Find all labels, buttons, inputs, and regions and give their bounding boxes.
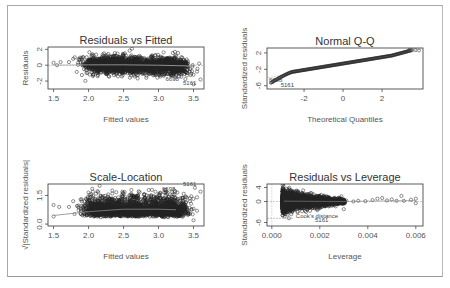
chart-title: Residuals vs Fitted — [80, 34, 173, 46]
point-label: 5161 — [183, 181, 197, 187]
x-tick-label: 0 — [341, 94, 346, 103]
x-tick-label: 0.004 — [358, 231, 379, 240]
y-tick-label: -6 — [254, 218, 263, 226]
x-tick-label: 3.0 — [153, 231, 165, 240]
point-label: 6698 — [162, 186, 176, 192]
x-tick-label: 0.002 — [310, 231, 331, 240]
data-points — [48, 47, 204, 86]
y-tick-label: -2 — [35, 77, 44, 85]
y-tick-label: 0.0 — [35, 218, 44, 230]
x-tick-label: 2 — [380, 94, 385, 103]
x-tick-label: 2.5 — [118, 231, 130, 240]
y-axis-label: Standardized residuals — [240, 28, 249, 109]
y-tick-label: 0 — [35, 62, 44, 67]
chart-p4: Cook's distance5161Residuals vs Leverage… — [240, 164, 426, 261]
x-tick-label: 3.5 — [188, 94, 200, 103]
data-points — [267, 181, 423, 226]
y-tick-label: 1.5 — [35, 189, 44, 201]
x-tick-label: 1.5 — [48, 231, 60, 240]
chart-p3: 66985161Scale-Location1.52.02.53.03.50.0… — [21, 160, 204, 261]
y-axis-label: Residuals — [21, 50, 30, 85]
point-label: 5161 — [183, 80, 197, 86]
x-tick-label: 0.006 — [406, 231, 427, 240]
x-tick-label: 2.0 — [83, 94, 95, 103]
y-axis-label: √|Standardized residuals| — [21, 160, 30, 250]
point-label: 900 — [407, 47, 418, 53]
y-tick-label: -6 — [254, 82, 263, 90]
x-tick-label: 3.0 — [153, 94, 165, 103]
chart-p2: 66985161900Normal Q-Q-202-6-22Theoretica… — [240, 28, 423, 124]
point-label: 5161 — [315, 217, 329, 223]
x-axis-label: Theoretical Quantiles — [307, 115, 383, 124]
x-tick-label: -2 — [300, 94, 308, 103]
x-tick-label: 2.5 — [118, 94, 130, 103]
chart-title: Scale-Location — [90, 171, 163, 183]
x-tick-label: 1.5 — [48, 94, 60, 103]
y-tick-label: -2 — [254, 65, 263, 73]
point-label: 5161 — [281, 82, 295, 88]
chart-title: Residuals vs Leverage — [289, 171, 400, 183]
data-points — [265, 49, 421, 85]
y-tick-label: 2 — [35, 47, 44, 52]
diagnostic-plots: 66985161Residuals vs Fitted1.52.02.53.03… — [0, 0, 450, 288]
x-axis-label: Leverage — [328, 252, 362, 261]
x-axis-label: Fitted values — [103, 115, 148, 124]
y-tick-label: 0 — [254, 199, 263, 204]
point-label: 6698 — [166, 76, 180, 82]
x-tick-label: 0.000 — [262, 231, 283, 240]
chart-p1: 66985161Residuals vs Fitted1.52.02.53.03… — [21, 34, 204, 124]
x-axis-label: Fitted values — [103, 252, 148, 261]
y-tick-label: 2 — [254, 50, 263, 55]
y-tick-label: 4 — [254, 185, 263, 190]
x-tick-label: 2.0 — [83, 231, 95, 240]
x-tick-label: 3.5 — [188, 231, 200, 240]
chart-title: Normal Q-Q — [315, 35, 375, 47]
y-axis-label: Standardized residuals — [240, 164, 249, 245]
